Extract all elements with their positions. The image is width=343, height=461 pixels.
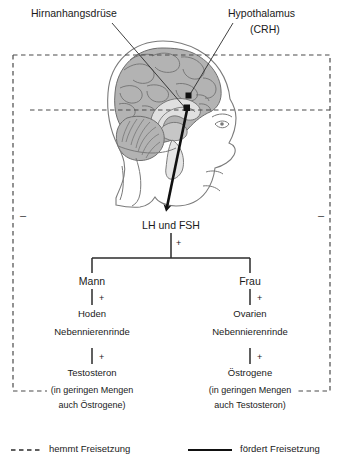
legend-label-inhibit: hemmt Freisetzung	[49, 444, 130, 454]
legend-label-promote: fördert Freisetzung	[240, 444, 320, 454]
hormone-axis-diagram: Hirnanhangsdrüse Hypothalamus (CRH) – – …	[0, 0, 343, 461]
legend-line-samples	[0, 0, 343, 461]
